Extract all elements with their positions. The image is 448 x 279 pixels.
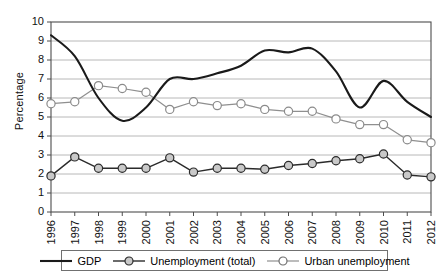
x-tick-label: 2001 <box>164 220 176 244</box>
y-tick-label: 3 <box>38 148 44 160</box>
data-point-marker <box>379 150 387 158</box>
legend-label-urban-unemployment: Urban unemployment <box>304 255 409 267</box>
data-point-marker <box>379 121 387 129</box>
data-point-marker <box>261 165 269 173</box>
x-tick-label: 2012 <box>425 220 437 244</box>
legend-item-gdp: GDP <box>39 255 101 267</box>
x-tick-label: 2011 <box>401 220 413 244</box>
legend-item-urban-unemployment: Urban unemployment <box>266 255 409 267</box>
y-tick-label: 1 <box>38 186 44 198</box>
data-point-marker <box>237 164 245 172</box>
plot-area: 012345678910 199619971998199920002001200… <box>0 0 448 279</box>
data-point-marker <box>166 105 174 113</box>
data-point-marker <box>237 100 245 108</box>
data-point-marker <box>47 100 55 108</box>
x-axis-ticks: 1996199719981999200020012002200320042005… <box>45 212 437 244</box>
chart-figure: Percentage 012345678910 1996199719981999… <box>0 0 448 279</box>
data-point-marker <box>118 164 126 172</box>
data-point-marker <box>142 88 150 96</box>
x-tick-label: 2006 <box>283 220 295 244</box>
y-tick-label: 9 <box>38 34 44 46</box>
legend-swatch-open-marker <box>266 255 300 267</box>
x-tick-label: 1996 <box>45 220 57 244</box>
data-point-marker <box>71 153 79 161</box>
data-series-layer <box>47 35 435 181</box>
data-point-marker <box>94 164 102 172</box>
x-tick-label: 2000 <box>140 220 152 244</box>
x-tick-label: 2008 <box>330 220 342 244</box>
y-tick-label: 8 <box>38 53 44 65</box>
y-tick-label: 7 <box>38 72 44 84</box>
series-urban-unemployment-line <box>51 86 431 143</box>
data-point-marker <box>71 98 79 106</box>
x-tick-label: 2005 <box>259 220 271 244</box>
x-tick-label: 2010 <box>378 220 390 244</box>
data-point-marker <box>308 159 316 167</box>
x-tick-label: 1997 <box>69 220 81 244</box>
data-point-marker <box>332 115 340 123</box>
x-tick-label: 2003 <box>211 220 223 244</box>
y-tick-label: 4 <box>38 129 44 141</box>
x-tick-label: 2002 <box>188 220 200 244</box>
data-point-marker <box>284 161 292 169</box>
y-tick-label: 6 <box>38 91 44 103</box>
legend-item-unemployment-total: Unemployment (total) <box>112 255 255 267</box>
x-tick-label: 2004 <box>235 220 247 244</box>
chart-legend: GDP Unemployment (total) Urban unemploym… <box>61 250 388 271</box>
x-tick-label: 2007 <box>306 220 318 244</box>
data-point-marker <box>94 82 102 90</box>
data-point-marker <box>356 121 364 129</box>
data-point-marker <box>213 164 221 172</box>
data-point-marker <box>47 172 55 180</box>
x-tick-label: 1999 <box>116 220 128 244</box>
legend-label-gdp: GDP <box>77 255 101 267</box>
y-axis-ticks: 012345678910 <box>32 15 51 217</box>
x-tick-label: 1998 <box>93 220 105 244</box>
data-point-marker <box>118 84 126 92</box>
data-point-marker <box>284 107 292 115</box>
data-point-marker <box>356 155 364 163</box>
data-point-marker <box>142 164 150 172</box>
series-unemployment-total <box>47 150 435 181</box>
y-tick-label: 2 <box>38 167 44 179</box>
data-point-marker <box>403 136 411 144</box>
x-tick-label: 2009 <box>354 220 366 244</box>
data-point-marker <box>403 171 411 179</box>
series-urban-unemployment <box>47 82 435 147</box>
data-point-marker <box>332 157 340 165</box>
data-point-marker <box>427 173 435 181</box>
data-point-marker <box>166 154 174 162</box>
legend-swatch-line <box>39 255 73 267</box>
y-tick-label: 10 <box>32 15 44 27</box>
data-point-marker <box>261 105 269 113</box>
data-point-marker <box>189 168 197 176</box>
data-point-marker <box>427 139 435 147</box>
y-tick-label: 0 <box>38 205 44 217</box>
legend-label-unemployment-total: Unemployment (total) <box>150 255 255 267</box>
data-point-marker <box>189 98 197 106</box>
data-point-marker <box>308 107 316 115</box>
legend-swatch-filled-marker <box>112 255 146 267</box>
y-tick-label: 5 <box>38 110 44 122</box>
data-point-marker <box>213 102 221 110</box>
